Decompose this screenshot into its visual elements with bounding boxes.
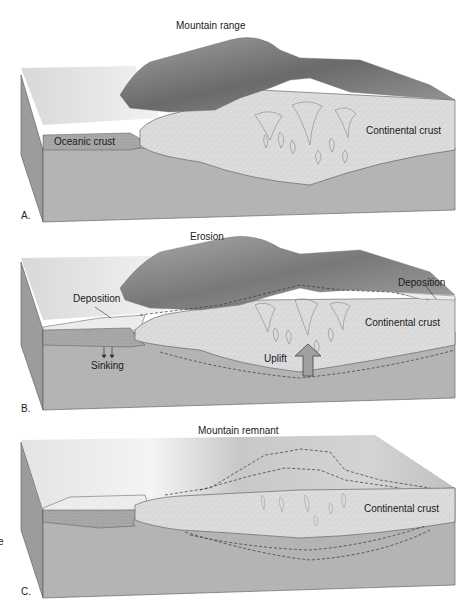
sinking-label: Sinking — [91, 360, 124, 371]
deposition-right-label: Deposition — [398, 277, 445, 288]
panel-a: Mountain range Oceanic crust Continental… — [21, 20, 455, 222]
panel-c: Mountain remnant Continental crust C. — [21, 425, 455, 598]
stray-glyph: e — [0, 536, 4, 547]
isostasy-diagram: Mountain range Oceanic crust Continental… — [0, 0, 471, 609]
panel-b: Erosion Deposition Deposition Continenta… — [21, 231, 455, 414]
continental-crust-label: Continental crust — [366, 125, 441, 136]
panel-c-title: Mountain remnant — [198, 425, 279, 436]
continental-crust-label: Continental crust — [365, 317, 440, 328]
oceanic-crust-label: Oceanic crust — [54, 136, 115, 147]
deposition-left-label: Deposition — [73, 293, 120, 304]
panel-b-letter: B. — [21, 403, 30, 414]
panel-c-letter: C. — [21, 586, 31, 597]
uplift-label: Uplift — [264, 353, 287, 364]
oceanic-crust — [43, 328, 145, 347]
panel-a-letter: A. — [21, 210, 30, 221]
continental-crust-label: Continental crust — [364, 503, 439, 514]
panel-a-title: Mountain range — [176, 20, 246, 31]
panel-b-title: Erosion — [190, 231, 224, 242]
